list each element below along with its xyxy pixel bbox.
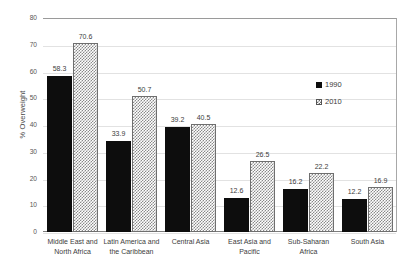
bar-pair: 39.240.5 <box>161 18 220 232</box>
legend-swatch-2010-icon <box>316 99 322 105</box>
bar-group: 33.950.7 <box>102 18 161 232</box>
bar-group: 58.370.6 <box>43 18 102 232</box>
bar-groups: 58.370.633.950.739.240.512.626.516.222.2… <box>43 18 397 232</box>
bar-value-label: 70.6 <box>79 33 93 40</box>
bar-value-label: 39.2 <box>171 116 185 123</box>
bar-1990[interactable]: 33.9 <box>106 141 131 232</box>
y-axis-tick-label: 30 <box>15 149 37 156</box>
y-axis-tick-label: 20 <box>15 176 37 183</box>
y-axis-tick-label: 80 <box>15 15 37 22</box>
bar-value-label: 58.3 <box>53 65 67 72</box>
bar-group: 12.626.5 <box>220 18 279 232</box>
bar-pair: 12.216.9 <box>338 18 397 232</box>
bar-2010[interactable]: 50.7 <box>132 96 157 232</box>
bar-value-label: 22.2 <box>315 163 329 170</box>
bar-value-label: 40.5 <box>197 114 211 121</box>
bar-2010[interactable]: 22.2 <box>309 173 334 232</box>
bar-1990[interactable]: 12.2 <box>342 199 367 232</box>
bar-value-label: 33.9 <box>112 130 126 137</box>
x-axis-category-label: Central Asia <box>161 237 220 257</box>
legend-label-2010: 2010 <box>325 98 342 106</box>
legend-item-2010[interactable]: 2010 <box>316 93 380 110</box>
x-axis-category-label: Latin America andthe Caribbean <box>102 237 161 257</box>
bar-1990[interactable]: 16.2 <box>283 189 308 232</box>
bar-2010[interactable]: 16.9 <box>368 187 393 232</box>
y-axis-tick-label: 40 <box>15 122 37 129</box>
legend-item-1990[interactable]: 1990 <box>316 76 380 93</box>
y-axis-tick-label: 70 <box>15 42 37 49</box>
bar-value-label: 50.7 <box>138 86 152 93</box>
bar-value-label: 12.2 <box>348 188 362 195</box>
y-axis-tick-label: 0 <box>15 229 37 236</box>
bar-1990[interactable]: 12.6 <box>224 198 249 232</box>
bar-2010[interactable]: 70.6 <box>73 43 98 232</box>
bar-2010[interactable]: 26.5 <box>250 161 275 232</box>
legend-swatch-1990-icon <box>316 82 322 88</box>
bar-group: 12.216.9 <box>338 18 397 232</box>
bar-pair: 16.222.2 <box>279 18 338 232</box>
bar-value-label: 16.9 <box>374 177 388 184</box>
bar-group: 39.240.5 <box>161 18 220 232</box>
bar-value-label: 16.2 <box>289 178 303 185</box>
x-axis-category-labels: Middle East andNorth AfricaLatin America… <box>43 237 397 257</box>
bar-2010[interactable]: 40.5 <box>191 124 216 232</box>
bar-pair: 12.626.5 <box>220 18 279 232</box>
chart-legend: 1990 2010 <box>316 76 380 110</box>
bar-value-label: 26.5 <box>256 151 270 158</box>
y-axis-tick-label: 10 <box>15 202 37 209</box>
x-axis-category-label: Middle East andNorth Africa <box>43 237 102 257</box>
bar-value-label: 12.6 <box>230 187 244 194</box>
bar-1990[interactable]: 58.3 <box>47 76 72 232</box>
overweight-bar-chart: % Overweight 80706050403020100 58.370.63… <box>0 0 416 277</box>
y-axis-tick-label: 60 <box>15 69 37 76</box>
bar-pair: 33.950.7 <box>102 18 161 232</box>
bar-1990[interactable]: 39.2 <box>165 127 190 232</box>
x-axis-category-label: South Asia <box>338 237 397 257</box>
gridline <box>43 233 396 234</box>
y-axis-tick-label: 50 <box>15 95 37 102</box>
x-axis-category-label: East Asia andPacific <box>220 237 279 257</box>
bar-group: 16.222.2 <box>279 18 338 232</box>
bar-pair: 58.370.6 <box>43 18 102 232</box>
legend-label-1990: 1990 <box>325 81 342 89</box>
x-axis-category-label: Sub-SaharanAfrica <box>279 237 338 257</box>
